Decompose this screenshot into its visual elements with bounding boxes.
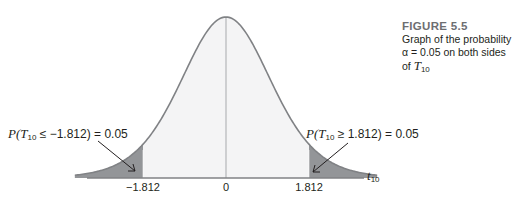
x-axis-label: t10: [367, 168, 380, 184]
left-tail-annotation: P(T10 ≤ −1.812) = 0.05: [8, 127, 128, 145]
tick-label-pos: 1.812: [295, 181, 323, 193]
figure-caption: FIGURE 5.5 Graph of the probability α = …: [402, 19, 515, 76]
right-tail-annotation: P(T10 ≥ 1.812) = 0.05: [306, 127, 419, 145]
tick-label-zero: 0: [223, 181, 229, 193]
tick-label-neg: −1.812: [126, 181, 160, 193]
caption-line-1: Graph of the probability: [402, 33, 515, 46]
figure-label: FIGURE 5.5: [402, 19, 515, 33]
caption-line-2: α = 0.05 on both sides of T10: [402, 46, 515, 76]
